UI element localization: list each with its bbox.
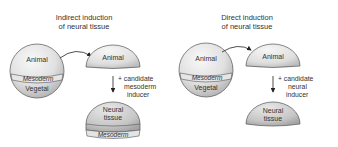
whole-embryo: Animal Mesoderm Vegetal bbox=[10, 44, 64, 98]
result-tissue-label: tissue bbox=[104, 114, 122, 121]
embryo-vegetal-label: Vegetal bbox=[194, 84, 218, 92]
panel-indirect-induction: Indirect induction of neural tissue Anim… bbox=[10, 13, 156, 139]
result-neural-with-mesoderm: Neural tissue Mesoderm bbox=[86, 102, 140, 139]
treatment-line3: inducer bbox=[127, 91, 150, 98]
panel-title-line1: Indirect induction bbox=[56, 13, 113, 22]
treatment-line1: + candidate bbox=[118, 75, 154, 82]
treatment-line3: inducer bbox=[286, 91, 309, 98]
result-neural-label: Neural bbox=[103, 106, 124, 113]
treatment-line1: + candidate bbox=[278, 75, 314, 82]
panel-title-line2: of neural tissue bbox=[59, 22, 110, 31]
panel-title-line2: of neural tissue bbox=[222, 22, 273, 31]
embryo-animal-label: Animal bbox=[195, 55, 217, 62]
treatment-line2: neural bbox=[288, 83, 307, 90]
explant-animal-label: Animal bbox=[102, 54, 124, 61]
embryo-mesoderm-label: Mesoderm bbox=[23, 75, 54, 82]
result-mesoderm-label: Mesoderm bbox=[98, 131, 129, 138]
animal-cap-explant: Animal bbox=[246, 44, 300, 68]
treatment-line2: mesoderm bbox=[124, 83, 156, 90]
result-tissue-label: tissue bbox=[264, 115, 282, 122]
animal-cap-explant: Animal bbox=[86, 45, 140, 69]
embryo-animal-label: Animal bbox=[26, 56, 48, 63]
embryo-mesoderm-label: Mesoderm bbox=[192, 74, 223, 81]
result-neural-tissue: Neural tissue bbox=[246, 102, 300, 126]
whole-embryo: Animal Mesoderm Vegetal bbox=[179, 43, 233, 97]
panel-direct-induction: Direct induction of neural tissue Animal… bbox=[179, 13, 314, 126]
diagram-canvas: Indirect induction of neural tissue Anim… bbox=[0, 0, 338, 147]
panel-title-line1: Direct induction bbox=[221, 13, 273, 22]
embryo-vegetal-label: Vegetal bbox=[25, 85, 49, 93]
transfer-arrow bbox=[222, 46, 251, 52]
transfer-arrow bbox=[60, 51, 91, 58]
result-neural-label: Neural bbox=[263, 107, 284, 114]
explant-animal-label: Animal bbox=[262, 53, 284, 60]
